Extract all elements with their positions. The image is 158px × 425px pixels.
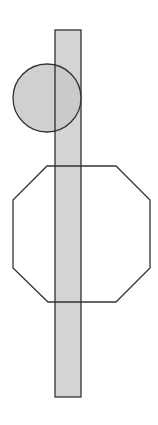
shapes-diagram — [0, 0, 158, 425]
circle — [13, 64, 81, 132]
